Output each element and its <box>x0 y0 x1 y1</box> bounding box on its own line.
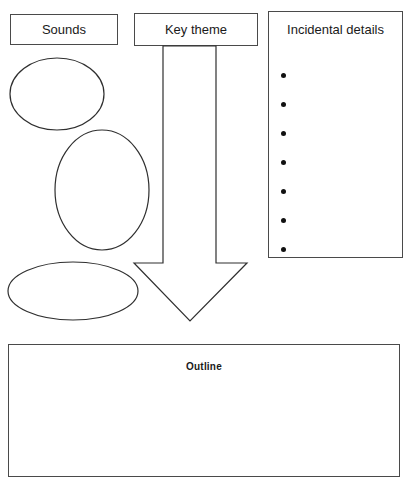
key-theme-down-arrow-icon[interactable] <box>134 46 247 321</box>
incidental-details-bullet-list <box>281 64 321 267</box>
bullet-icon <box>281 189 286 194</box>
bullet-icon <box>281 102 286 107</box>
outline-box[interactable]: Outline <box>8 344 400 477</box>
sounds-box-label: Sounds <box>11 22 117 37</box>
incidental-details-box[interactable]: Incidental details <box>268 11 403 258</box>
list-item[interactable] <box>281 180 321 209</box>
incidental-details-box-label: Incidental details <box>269 22 402 37</box>
list-item[interactable] <box>281 122 321 151</box>
bullet-icon <box>281 247 286 252</box>
list-item[interactable] <box>281 151 321 180</box>
list-item[interactable] <box>281 209 321 238</box>
list-item[interactable] <box>281 64 321 93</box>
list-item[interactable] <box>281 93 321 122</box>
sounds-ellipse-2[interactable] <box>55 130 149 250</box>
bullet-icon <box>281 218 286 223</box>
key-theme-box[interactable]: Key theme <box>134 13 258 46</box>
key-theme-box-label: Key theme <box>135 22 257 37</box>
bullet-icon <box>281 73 286 78</box>
list-item[interactable] <box>281 238 321 267</box>
outline-box-label: Outline <box>9 361 399 372</box>
bullet-icon <box>281 160 286 165</box>
bullet-icon <box>281 131 286 136</box>
worksheet-canvas: Sounds Key theme Incidental details <box>0 0 413 491</box>
sounds-ellipse-1[interactable] <box>10 58 104 130</box>
sounds-box[interactable]: Sounds <box>10 14 118 45</box>
sounds-ellipse-3[interactable] <box>8 262 138 320</box>
